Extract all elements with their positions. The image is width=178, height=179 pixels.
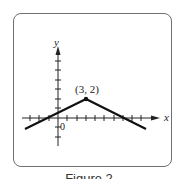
x-axis-label: x — [163, 111, 169, 123]
graph-plot: x y 0 (3, 2) — [0, 0, 178, 179]
x-axis-arrow-icon — [151, 116, 160, 121]
figure-caption: Figure 2 — [0, 171, 178, 179]
vertex-label: (3, 2) — [75, 83, 99, 96]
graph-line — [25, 99, 146, 129]
origin-label: 0 — [60, 121, 65, 132]
y-axis-label: y — [53, 36, 59, 48]
vertex-point — [84, 97, 88, 101]
